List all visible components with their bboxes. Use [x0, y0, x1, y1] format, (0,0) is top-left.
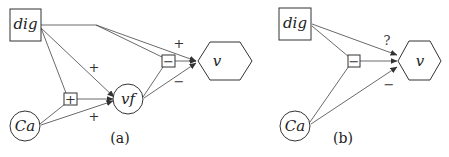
- junction-minus-label: −: [163, 54, 174, 69]
- node-dig-label: dig: [13, 15, 37, 33]
- node-v-label: v: [213, 52, 222, 70]
- node-v-b: v: [398, 41, 441, 80]
- edge-dig-to-vf: [41, 28, 114, 97]
- node-dig-a: dig: [10, 9, 41, 41]
- edge-label-ca-vf: +: [89, 109, 100, 124]
- junction-minus-a: −: [162, 54, 175, 69]
- edge-dig-to-minus: [96, 25, 162, 57]
- edge-ca-to-minus: [310, 66, 349, 122]
- node-ca-label: Ca: [285, 117, 305, 135]
- node-ca-b: Ca: [280, 111, 310, 141]
- node-vf-label: vf: [121, 90, 137, 108]
- causal-diagram: dig Ca + vf − v + + + −: [0, 0, 449, 157]
- edge-label-ca-v: −: [384, 77, 395, 92]
- node-vf-a: vf: [113, 84, 143, 114]
- node-dig-b: dig: [279, 8, 311, 40]
- panel-a: dig Ca + vf − v + + + −: [10, 9, 252, 146]
- edge-label-dig-vf: +: [89, 60, 100, 75]
- panel-b: dig Ca − v ? − (b): [279, 8, 441, 146]
- edge-ca-to-v: [311, 67, 397, 124]
- edge-label-dig-v: +: [174, 36, 185, 51]
- caption-b: (b): [333, 130, 353, 146]
- edge-dig-to-plus: [41, 28, 66, 93]
- node-ca-a: Ca: [10, 111, 40, 141]
- caption-a: (a): [110, 130, 129, 146]
- junction-minus-b: −: [348, 54, 360, 69]
- edge-label-vf-v: −: [174, 74, 185, 89]
- node-dig-label: dig: [283, 14, 307, 32]
- node-v-a: v: [198, 42, 252, 80]
- junction-plus-label: +: [65, 92, 76, 107]
- edge-label-dig-v: ?: [384, 33, 391, 48]
- edge-vf-to-minus: [143, 67, 163, 97]
- junction-minus-label: −: [349, 54, 360, 69]
- node-ca-label: Ca: [15, 117, 35, 135]
- node-v-label: v: [416, 52, 425, 70]
- junction-plus-a: +: [64, 92, 77, 107]
